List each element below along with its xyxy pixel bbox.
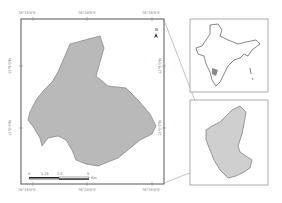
scale-tick-4: 5: [87, 172, 89, 176]
bottom-lon-label-3: 76°25'0"E: [142, 188, 160, 192]
north-label: N: [155, 27, 158, 32]
scale-tick-1: 1.25: [41, 172, 49, 176]
scale-unit: Km: [91, 176, 97, 180]
top-lon-label-1: 76°15'0"E: [18, 11, 36, 15]
top-lon-label-2: 76°20'0"E: [78, 11, 96, 15]
right-lat-label-1: 12°5'0"N: [158, 58, 162, 74]
left-lat-label-2: 12°0'0"N: [8, 120, 12, 136]
left-lat-label-1: 12°5'0"N: [8, 58, 12, 74]
top-lon-label-3: 76°25'0"E: [142, 11, 160, 15]
bottom-lon-label-2: 76°20'0"E: [78, 188, 96, 192]
scale-bar: [29, 177, 89, 180]
right-lat-label-2: 12°0'0"N: [158, 120, 162, 136]
bottom-lon-label-1: 76°15'0"E: [18, 188, 36, 192]
scale-tick-0: 0: [28, 172, 30, 176]
scale-tick-2: 2.5: [57, 172, 63, 176]
